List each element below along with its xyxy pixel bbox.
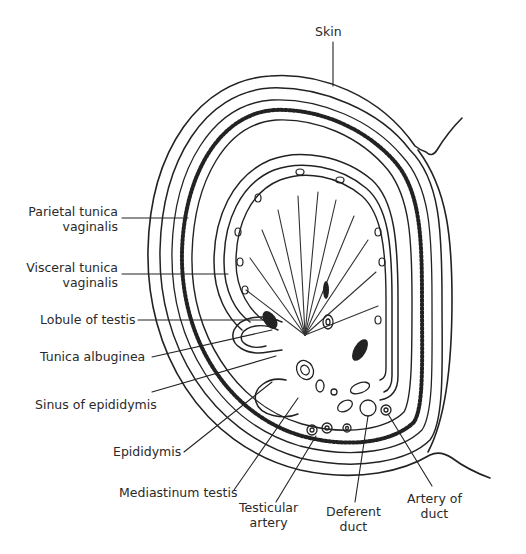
label-deferent-duct: Deferent duct xyxy=(326,504,381,534)
label-tunica-albuginea: Tunica albuginea xyxy=(40,349,145,364)
label-artery-of-duct: Artery of duct xyxy=(407,491,462,521)
label-epididymis: Epididymis xyxy=(113,444,181,459)
testis-cross-section-diagram: Skin Parietal tunica vaginalis Visceral … xyxy=(0,0,526,554)
label-mediastinum-testis: Mediastinum testis xyxy=(119,485,237,500)
label-parietal-tunica-vaginalis: Parietal tunica vaginalis xyxy=(28,204,118,234)
label-testicular-artery: Testicular artery xyxy=(239,500,298,530)
label-lobule-of-testis: Lobule of testis xyxy=(40,312,135,327)
label-skin: Skin xyxy=(315,24,342,39)
label-visceral-tunica-vaginalis: Visceral tunica vaginalis xyxy=(26,260,118,290)
label-sinus-of-epididymis: Sinus of epididymis xyxy=(35,397,157,412)
